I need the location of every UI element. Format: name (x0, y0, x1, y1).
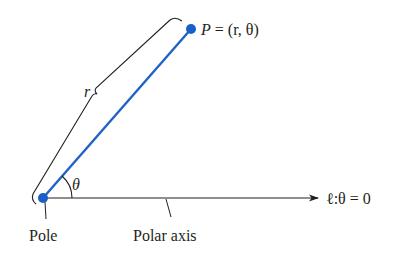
pole-point (38, 193, 48, 203)
radius-label: r (84, 83, 91, 100)
radius-ray (43, 29, 191, 198)
pole-label: Pole (29, 227, 57, 244)
radius-brace (32, 18, 182, 204)
polar-axis-leader (166, 199, 171, 217)
angle-label: θ (72, 176, 80, 193)
axis-equation-label: ℓ:θ = 0 (326, 190, 371, 207)
pole-leader (45, 202, 46, 219)
angle-arc (62, 176, 72, 198)
point-p (186, 24, 196, 34)
polar-axis-label: Polar axis (133, 227, 197, 244)
polar-diagram: P = (r, θ) r θ ℓ:θ = 0 Pole Polar axis (0, 0, 420, 256)
point-p-label: P = (r, θ) (200, 21, 259, 39)
